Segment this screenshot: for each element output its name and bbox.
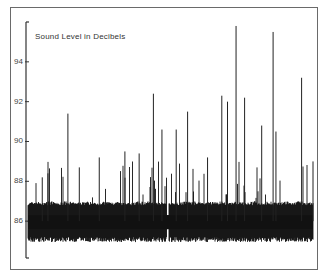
- y-tick-label: 90: [3, 136, 23, 145]
- sound-waveform: [28, 26, 313, 242]
- chart-title: Sound Level in Decibels: [35, 32, 125, 41]
- y-tick-label: 86: [3, 216, 23, 225]
- y-tick-label: 92: [3, 97, 23, 106]
- y-tick-label: 88: [3, 176, 23, 185]
- y-tick-label: 94: [3, 57, 23, 66]
- sound-level-chart: [0, 0, 328, 280]
